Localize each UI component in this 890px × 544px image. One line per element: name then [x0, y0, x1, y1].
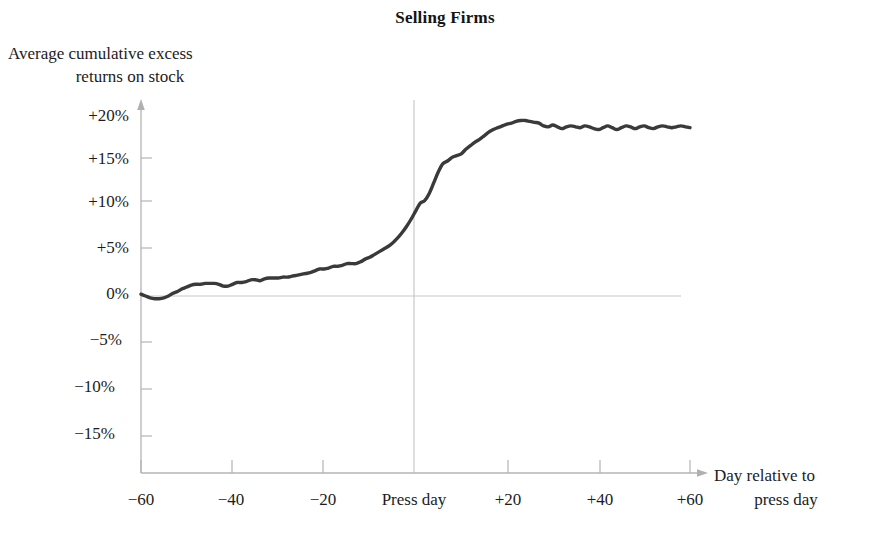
- plot-canvas: [0, 0, 890, 544]
- y-axis-arrow-icon: [137, 99, 145, 110]
- x-axis-arrow-icon: [697, 469, 708, 477]
- data-series-line: [141, 120, 690, 298]
- chart-figure: Selling Firms Average cumulative excess …: [0, 0, 890, 544]
- x-axis-ticks: [141, 460, 690, 473]
